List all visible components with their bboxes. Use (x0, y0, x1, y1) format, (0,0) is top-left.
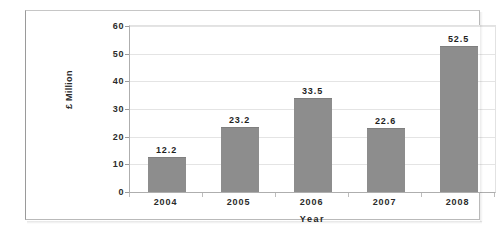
x-tick-label: 2008 (421, 197, 494, 207)
bar[interactable] (440, 46, 478, 192)
x-tick-label: 2005 (202, 197, 275, 207)
bar[interactable] (294, 98, 332, 192)
y-axis-tick-labels: 0102030405060 (94, 25, 124, 193)
bar[interactable] (367, 128, 405, 192)
y-tick-label: 0 (118, 187, 124, 197)
bar-value-label: 33.5 (302, 86, 323, 96)
x-axis-tick-labels: 20042005200620072008 (129, 197, 496, 213)
bar-value-label: 23.2 (229, 115, 250, 125)
x-tick-label: 2006 (275, 197, 348, 207)
bar-group[interactable]: 12.2 (130, 26, 203, 192)
y-tick-label: 20 (113, 132, 124, 142)
x-tick-label: 2007 (348, 197, 421, 207)
bar[interactable] (221, 127, 259, 192)
scan-shadow-bottom (27, 221, 482, 224)
scan-shadow-right (480, 12, 483, 222)
y-tick-label: 60 (113, 21, 124, 31)
bar-value-label: 12.2 (156, 145, 177, 155)
bar[interactable] (148, 157, 186, 192)
plot-area: 12.223.233.522.652.5 (129, 25, 496, 193)
bar-value-label: 22.6 (375, 116, 396, 126)
y-tick-label: 10 (113, 159, 124, 169)
x-tick-mark (494, 193, 495, 197)
y-tick-label: 30 (113, 104, 124, 114)
x-tick-label: 2004 (129, 197, 202, 207)
y-axis-title: £ Million (64, 70, 74, 109)
bar-group[interactable]: 23.2 (203, 26, 276, 192)
bar-group[interactable]: 52.5 (422, 26, 495, 192)
chart-frame: £ Million 0102030405060 12.223.233.522.6… (25, 10, 480, 220)
bar-group[interactable]: 22.6 (349, 26, 422, 192)
y-tick-label: 50 (113, 49, 124, 59)
bar-group[interactable]: 33.5 (276, 26, 349, 192)
y-tick-label: 40 (113, 76, 124, 86)
bar-value-label: 52.5 (448, 34, 469, 44)
x-tick-mark (129, 193, 130, 197)
